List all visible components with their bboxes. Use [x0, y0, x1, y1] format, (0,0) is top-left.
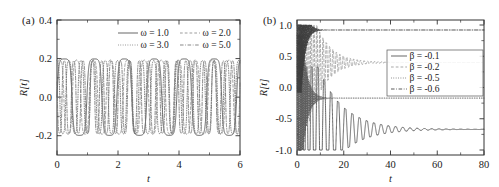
panel-a-label: (a) — [22, 14, 35, 26]
y-tick-label: 0.2 — [39, 53, 52, 64]
x-tick-label: 60 — [432, 159, 443, 170]
legend-label: β = -0.5 — [410, 73, 440, 83]
x-tick-label: 0 — [54, 159, 59, 170]
panel-a-legend: ω = 1.0ω = 2.0ω = 3.0ω = 5.0 — [118, 28, 231, 50]
panel-b-axes: 0204060801.00.50.0-0.5-1.0tR[t] — [258, 20, 489, 184]
x-tick-label: 40 — [385, 159, 396, 170]
x-axis-label: t — [147, 173, 151, 184]
y-axis-label: R[t] — [258, 79, 269, 98]
y-tick-label: -0.2 — [35, 130, 52, 141]
legend-label: β = -0.1 — [410, 51, 440, 61]
y-tick-label: 0.0 — [279, 82, 292, 93]
panel-b-label: (b) — [263, 14, 276, 26]
panel-a-curves — [57, 59, 240, 136]
figure-container: (a) 02460.40.20.0-0.2tR[t] ω = 1.0ω = 2.… — [0, 0, 499, 187]
x-tick-label: 20 — [339, 159, 350, 170]
panel-a-plot: 02460.40.20.0-0.2tR[t] ω = 1.0ω = 2.0ω =… — [0, 0, 250, 187]
legend-label: β = -0.6 — [410, 84, 440, 94]
x-tick-label: 6 — [237, 159, 242, 170]
y-tick-label: 0.5 — [279, 51, 292, 62]
legend-label: ω = 5.0 — [203, 40, 231, 50]
panel-b: (b) 0204060801.00.50.0-0.5-1.0tR[t] β = … — [249, 0, 499, 187]
panel-a: (a) 02460.40.20.0-0.2tR[t] ω = 1.0ω = 2.… — [0, 0, 250, 187]
y-tick-label: -0.5 — [275, 113, 292, 124]
x-tick-label: 80 — [479, 159, 490, 170]
y-tick-label: 0.4 — [39, 15, 53, 26]
x-tick-label: 4 — [176, 159, 182, 170]
legend-label: ω = 1.0 — [141, 28, 169, 38]
y-tick-label: -1.0 — [275, 145, 292, 156]
panel-b-plot: 0204060801.00.50.0-0.5-1.0tR[t] β = -0.1… — [249, 0, 499, 187]
x-tick-label: 0 — [294, 159, 299, 170]
x-axis-label: t — [389, 173, 393, 184]
legend-label: β = -0.2 — [410, 62, 440, 72]
y-tick-label: 1.0 — [279, 20, 292, 31]
legend-label: ω = 3.0 — [141, 40, 169, 50]
panel-b-legend: β = -0.1β = -0.2β = -0.5β = -0.6 — [387, 50, 483, 96]
y-tick-label: 0.0 — [39, 92, 52, 103]
x-tick-label: 2 — [115, 159, 120, 170]
legend-label: ω = 2.0 — [203, 28, 231, 38]
y-axis-label: R[t] — [18, 79, 29, 98]
